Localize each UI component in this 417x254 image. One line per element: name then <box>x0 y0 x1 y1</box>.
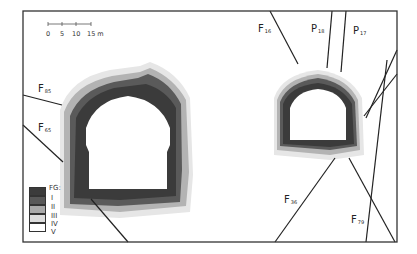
scale-tick-5: 5 <box>60 30 64 38</box>
legend-swatch-iv <box>29 214 46 223</box>
fault-line-p18 <box>327 11 332 68</box>
legend-swatch-i <box>29 187 46 196</box>
fault-line-f16 <box>270 11 298 64</box>
fault-label-p18: P18 <box>311 24 324 34</box>
legend-title: FG: <box>49 185 61 192</box>
left-tunnel-opening <box>86 96 170 189</box>
fault-line-right-b <box>364 74 397 116</box>
fault-label-f16: F16 <box>258 24 271 34</box>
fault-line-p17 <box>341 11 346 72</box>
fault-line-f79a <box>349 158 395 242</box>
fault-label-f79: F79 <box>351 215 364 225</box>
legend-label-i: I <box>51 195 53 202</box>
scale-tick-0: 0 <box>46 30 50 38</box>
fault-label-f85: F85 <box>38 84 51 94</box>
fault-line-f79b <box>366 60 387 242</box>
fault-line-f85 <box>23 95 62 105</box>
legend-swatch-v <box>29 223 46 232</box>
left-tunnel <box>60 62 193 218</box>
legend-label-ii: II <box>51 204 55 211</box>
legend-swatch-ii <box>29 196 46 205</box>
fault-label-p17: P17 <box>353 26 366 36</box>
scale-tick-10: 10 <box>72 30 80 38</box>
legend-label-iv: IV <box>51 221 58 228</box>
legend-label-iii: III <box>51 213 57 220</box>
fault-label-f65: F65 <box>38 123 51 133</box>
scale-bar <box>48 22 91 26</box>
legend-swatch-iii <box>29 205 46 214</box>
legend-label-v: V <box>51 229 56 236</box>
right-tunnel <box>274 70 364 160</box>
fault-label-f36: F36 <box>284 195 297 205</box>
right-tunnel-opening <box>290 89 346 140</box>
scale-tick-15m: 15 m <box>87 30 104 38</box>
